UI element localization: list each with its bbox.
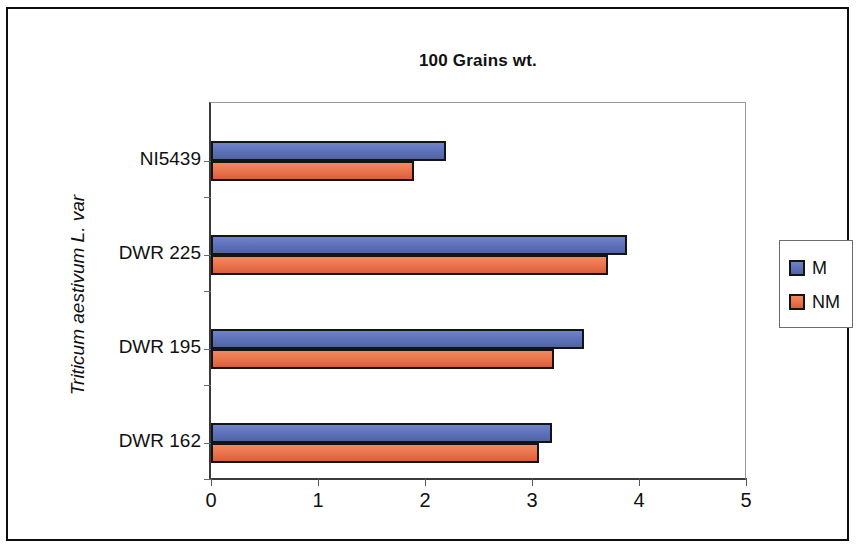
bar-m-ni5439 — [211, 141, 446, 161]
x-axis-tick — [639, 478, 640, 486]
y-axis-tick — [204, 161, 211, 162]
x-axis-label-2: 2 — [405, 489, 445, 512]
y-axis-tick — [204, 291, 211, 292]
plot-inner: DWR 162DWR 195DWR 225NI5439012345 — [211, 103, 745, 478]
x-axis-tick — [532, 478, 533, 486]
x-axis-label-4: 4 — [619, 489, 659, 512]
bar-nm-dwr-195 — [211, 349, 554, 369]
chart-title: 100 Grains wt. — [208, 51, 748, 71]
chart-legend: M NM — [779, 240, 853, 328]
y-axis-tick — [204, 197, 211, 198]
legend-swatch-m-icon — [789, 260, 805, 276]
bar-nm-dwr-162 — [211, 443, 539, 463]
y-axis-title: Triticum aestivum L. var — [67, 165, 89, 425]
x-axis-label-5: 5 — [726, 489, 766, 512]
x-axis-tick — [211, 478, 212, 486]
y-axis-tick — [204, 443, 211, 444]
y-axis-label-dwr-162: DWR 162 — [61, 430, 201, 452]
legend-item-m: M — [789, 251, 852, 285]
image-frame: 100 Grains wt. Triticum aestivum L. var … — [6, 7, 849, 541]
y-axis-label-dwr-225: DWR 225 — [61, 242, 201, 264]
legend-item-nm: NM — [789, 285, 852, 319]
chart-page: 100 Grains wt. Triticum aestivum L. var … — [0, 0, 860, 552]
bar-m-dwr-225 — [211, 235, 627, 255]
x-axis-tick — [746, 478, 747, 486]
x-axis-tick — [318, 478, 319, 486]
y-axis-label-dwr-195: DWR 195 — [61, 336, 201, 358]
y-axis-tick — [204, 479, 211, 480]
bar-m-dwr-195 — [211, 329, 584, 349]
bar-nm-dwr-225 — [211, 255, 608, 275]
plot-area: DWR 162DWR 195DWR 225NI5439012345 — [209, 102, 746, 480]
y-axis-tick — [204, 255, 211, 256]
y-axis-tick — [204, 349, 211, 350]
x-axis-tick — [425, 478, 426, 486]
y-axis-label-ni5439: NI5439 — [61, 148, 201, 170]
x-axis-label-1: 1 — [298, 489, 338, 512]
x-axis-label-3: 3 — [512, 489, 552, 512]
legend-label-nm: NM — [812, 293, 840, 311]
bar-m-dwr-162 — [211, 423, 552, 443]
legend-swatch-nm-icon — [789, 294, 805, 310]
bar-nm-ni5439 — [211, 161, 414, 181]
y-axis-tick — [204, 385, 211, 386]
x-axis-label-0: 0 — [191, 489, 231, 512]
legend-label-m: M — [812, 259, 827, 277]
